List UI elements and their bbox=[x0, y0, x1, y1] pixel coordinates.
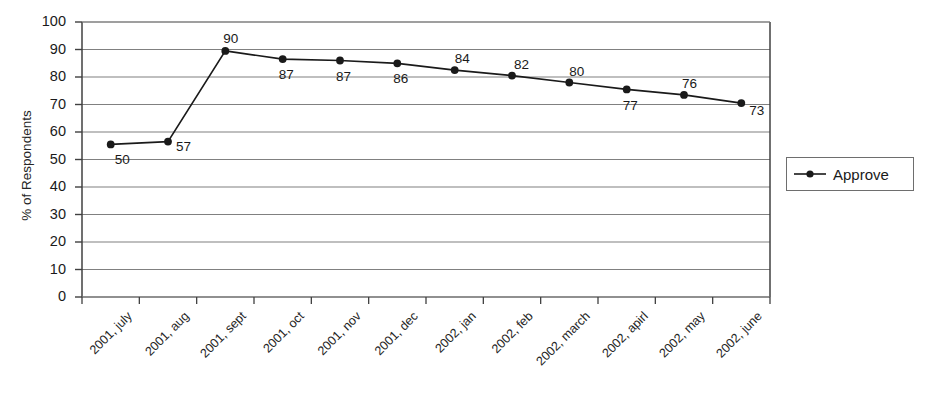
data-point-marker bbox=[508, 72, 516, 80]
data-point-label: 73 bbox=[749, 104, 764, 118]
data-point-label: 50 bbox=[115, 153, 130, 167]
series-line bbox=[111, 51, 742, 144]
data-point-label: 57 bbox=[176, 140, 191, 154]
data-point-marker bbox=[336, 57, 344, 65]
line-chart: % of Respondents 0102030405060708090100 … bbox=[0, 0, 925, 399]
data-point-label: 87 bbox=[336, 70, 351, 84]
legend-marker-icon bbox=[793, 167, 827, 181]
legend-label-approve: Approve bbox=[833, 166, 889, 183]
data-series-approve bbox=[107, 47, 745, 148]
axis-lines bbox=[75, 22, 770, 304]
data-point-marker bbox=[680, 91, 688, 99]
data-point-marker bbox=[164, 138, 172, 146]
data-point-label: 82 bbox=[514, 58, 529, 72]
gridlines bbox=[82, 22, 770, 297]
data-point-marker bbox=[393, 59, 401, 67]
data-point-marker bbox=[107, 141, 115, 149]
data-point-marker bbox=[279, 55, 287, 63]
data-point-label: 76 bbox=[682, 77, 697, 91]
data-point-marker bbox=[737, 99, 745, 107]
data-point-label: 80 bbox=[569, 65, 584, 79]
data-point-marker bbox=[451, 66, 459, 74]
data-point-label: 86 bbox=[393, 72, 408, 86]
data-point-label: 77 bbox=[623, 99, 638, 113]
data-point-label: 87 bbox=[279, 68, 294, 82]
data-point-label: 84 bbox=[455, 52, 470, 66]
data-point-marker bbox=[623, 86, 631, 94]
data-point-marker bbox=[565, 79, 573, 87]
data-point-label: 90 bbox=[223, 32, 238, 46]
legend: Approve bbox=[786, 157, 914, 191]
data-point-marker bbox=[221, 47, 229, 55]
